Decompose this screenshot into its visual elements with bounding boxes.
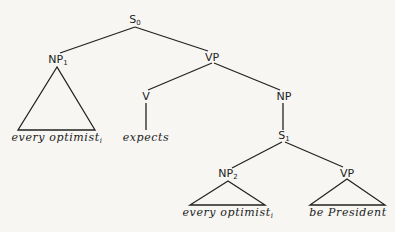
triangle-np2	[190, 181, 265, 205]
node-np2-subscript: 2	[233, 173, 237, 181]
leaf-be-president: be President	[309, 207, 387, 218]
edge-s0-np1	[60, 27, 135, 53]
node-s1: S1	[278, 130, 289, 143]
node-vp-label: VP	[205, 51, 219, 64]
node-vp2: VP	[340, 168, 354, 179]
node-s0-label: S	[129, 13, 136, 26]
edge-vp-v	[148, 63, 212, 90]
leaf-expects: expects	[123, 132, 170, 143]
node-v-label: V	[142, 90, 150, 103]
node-np1-label: NP	[48, 53, 63, 66]
node-np1: NP1	[48, 54, 67, 67]
node-vp2-label: VP	[340, 167, 354, 180]
leaf-np1-text: every optimist	[11, 131, 99, 144]
tree-lines	[0, 0, 395, 232]
node-np2: NP2	[218, 168, 237, 181]
node-np: NP	[277, 91, 292, 102]
node-np1-subscript: 1	[63, 59, 67, 67]
triangle-vp2	[310, 179, 385, 205]
leaf-np1-subscript: i	[100, 137, 103, 145]
node-v: V	[142, 91, 150, 102]
leaf-np2-subscript: i	[271, 212, 274, 220]
triangle-np1	[18, 67, 95, 130]
edge-s1-vp	[285, 142, 343, 167]
leaf-every-optimist-2: every optimisti	[182, 207, 273, 220]
node-s0: S0	[129, 14, 140, 27]
syntax-tree-diagram: S0 NP1 VP V NP S1 NP2 VP every optimisti…	[0, 0, 395, 232]
node-vp: VP	[205, 52, 219, 63]
node-np-label: NP	[277, 90, 292, 103]
node-np2-label: NP	[218, 167, 233, 180]
edge-vp-np	[214, 63, 280, 90]
edge-s0-vp	[135, 27, 208, 51]
leaf-v-text: expects	[123, 131, 170, 144]
node-s1-label: S	[278, 129, 285, 142]
node-s1-subscript: 1	[285, 135, 289, 143]
leaf-vp2-text: be President	[309, 206, 387, 219]
edge-s1-np2	[232, 142, 282, 168]
node-s0-subscript: 0	[136, 19, 140, 27]
leaf-np2-text: every optimist	[182, 206, 270, 219]
leaf-every-optimist-1: every optimisti	[11, 132, 102, 145]
